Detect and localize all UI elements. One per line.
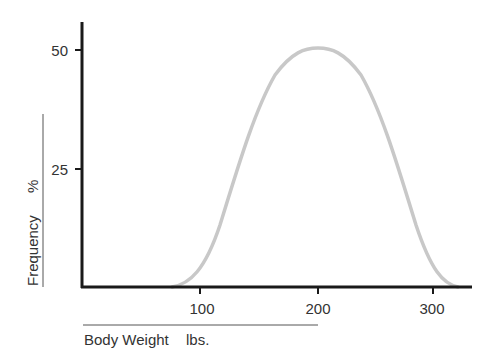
y-tick-label-50: 50: [51, 42, 68, 59]
y-axis-label: Frequency: [24, 215, 41, 286]
y-tick-label-25: 25: [51, 161, 68, 178]
x-axis-unit: lbs.: [186, 331, 209, 348]
x-tick-label-200: 200: [305, 300, 330, 317]
distribution-curve: [172, 48, 458, 287]
y-axis-unit: %: [24, 180, 41, 193]
x-tick-label-100: 100: [189, 300, 214, 317]
x-axis-label: Body Weight: [84, 331, 170, 348]
x-tick-label-300: 300: [419, 300, 444, 317]
chart: 50 25 100 200 300 Body Weight lbs. Frequ…: [0, 0, 494, 359]
